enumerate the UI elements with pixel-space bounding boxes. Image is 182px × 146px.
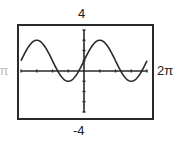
- xmax-label: 2π: [157, 64, 173, 77]
- axes: [21, 30, 147, 112]
- ymax-label: 4: [78, 7, 85, 20]
- xmin-label: -2π: [0, 64, 9, 77]
- ymin-label: -4: [73, 124, 85, 137]
- plot-area: [0, 0, 182, 146]
